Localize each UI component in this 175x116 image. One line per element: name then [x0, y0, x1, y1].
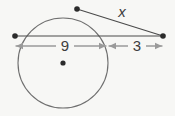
external-point — [160, 33, 166, 39]
geometry-diagram-container: 9 3 x — [0, 0, 175, 116]
geometry-figure: 9 3 x — [0, 0, 175, 116]
dimension-external-label: 3 — [133, 37, 141, 54]
tangent-length-label: x — [117, 3, 126, 20]
tangent-point — [74, 6, 80, 12]
secant-left-point — [12, 33, 18, 39]
circle-center-dot — [60, 60, 65, 65]
dimension-diameter-label: 9 — [61, 37, 69, 54]
figure-background — [0, 0, 175, 116]
